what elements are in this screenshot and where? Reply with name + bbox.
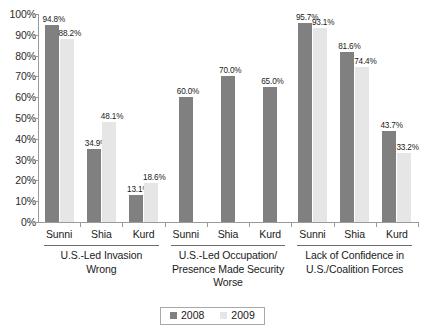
bar-2009 [397, 153, 411, 222]
group-title-line: U.S.-Led Occupation/ [159, 249, 298, 263]
bar-value-label-2008: 43.7% [380, 121, 402, 130]
bar-value-label-2008: 65.0% [261, 77, 283, 86]
bar-2008 [87, 149, 101, 222]
y-axis-tick-label: 10% [0, 196, 36, 206]
y-axis-tick-label: 40% [0, 134, 36, 144]
bar-2009 [313, 28, 327, 222]
group-title-line: U.S./Coalition Forces [285, 263, 424, 277]
x-axis-tick-mark [334, 222, 335, 227]
bar-2009 [355, 67, 369, 222]
legend-swatch-2009-icon [220, 312, 227, 319]
group-title-line: Presence Made Security [159, 263, 298, 277]
bar-value-label-2009: 74.4% [354, 57, 376, 66]
bar-2008 [382, 131, 396, 222]
category-label: Sunni [38, 228, 80, 241]
category-label: Shia [334, 228, 376, 241]
bar-value-label-2009: 88.2% [59, 29, 81, 38]
bar-value-label-2009: 48.1% [101, 112, 123, 121]
category-label: Shia [80, 228, 122, 241]
y-axis-tick-label: 80% [0, 51, 36, 61]
y-axis-tick-label: 20% [0, 175, 36, 185]
bar-value-label-2009: 18.6% [143, 173, 165, 182]
bar-chart: 100%90%80%70%60%50%40%30%20%10%0% 94.8%8… [0, 0, 426, 333]
group-title-line: Worse [159, 276, 298, 290]
category-label: Kurd [249, 228, 291, 241]
bar-value-label-2008: 94.8% [43, 15, 65, 24]
legend-label-2009: 2009 [231, 310, 254, 321]
category-label: Kurd [376, 228, 418, 241]
group-title: U.S.-Led InvasionWrong [32, 249, 171, 276]
bar-2008 [298, 23, 312, 222]
group-title-line: U.S.-Led Invasion [32, 249, 171, 263]
y-axis-tick-label: 30% [0, 155, 36, 165]
category-label: Sunni [291, 228, 333, 241]
y-axis-tick-label: 100% [0, 9, 36, 19]
category-label: Sunni [165, 228, 207, 241]
legend-item-2008: 2008 [170, 310, 204, 321]
bar-value-label-2008: 81.6% [338, 42, 360, 51]
category-label: Shia [207, 228, 249, 241]
y-axis-tick-label: 70% [0, 71, 36, 81]
chart-legend: 2008 2009 [160, 307, 265, 325]
bar-value-label-2008: 60.0% [177, 87, 199, 96]
bar-2009 [144, 183, 158, 222]
x-axis-tick-mark [418, 222, 419, 227]
legend-label-2008: 2008 [181, 310, 204, 321]
bar-2008 [45, 25, 59, 222]
y-axis-tick-label: 50% [0, 113, 36, 123]
x-axis-tick-mark [376, 222, 377, 227]
y-axis-tick-label: 60% [0, 92, 36, 102]
bar-value-label-2009: 93.1% [312, 18, 334, 27]
x-axis-tick-mark [122, 222, 123, 227]
group-title-line: Lack of Confidence in [285, 249, 424, 263]
x-axis-tick-mark [165, 222, 166, 227]
legend-item-2009: 2009 [220, 310, 254, 321]
bar-2008 [221, 76, 235, 222]
bar-2008 [129, 195, 143, 222]
bar-2009 [102, 122, 116, 222]
group-title: U.S.-Led Occupation/Presence Made Securi… [159, 249, 298, 290]
bar-value-label-2008: 70.0% [219, 66, 241, 75]
y-axis-tick-label: 90% [0, 30, 36, 40]
group-title: Lack of Confidence inU.S./Coalition Forc… [285, 249, 424, 276]
group-underline [171, 245, 286, 246]
bar-2008 [179, 97, 193, 222]
x-axis-tick-mark [291, 222, 292, 227]
y-axis-tick-mark [34, 222, 38, 223]
x-axis-tick-mark [80, 222, 81, 227]
bar-value-label-2009: 33.2% [396, 143, 418, 152]
group-underline [44, 245, 159, 246]
y-axis-tick-label: 0% [0, 217, 36, 227]
x-axis-tick-mark [207, 222, 208, 227]
bar-2009 [60, 39, 74, 222]
bar-2008 [263, 87, 277, 222]
group-underline [297, 245, 412, 246]
category-label: Kurd [122, 228, 164, 241]
bar-2008 [340, 52, 354, 222]
plot-area: 94.8%88.2%34.9%48.1%13.1%18.6%60.0%70.0%… [38, 14, 418, 222]
x-axis-tick-mark [249, 222, 250, 227]
x-axis-line [38, 222, 419, 223]
legend-swatch-2008-icon [170, 312, 177, 319]
group-title-line: Wrong [32, 263, 171, 277]
